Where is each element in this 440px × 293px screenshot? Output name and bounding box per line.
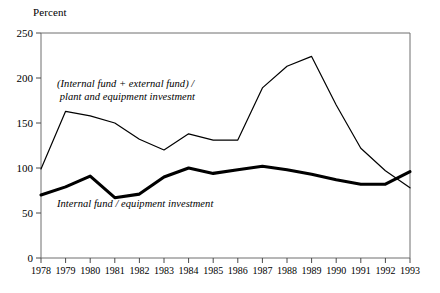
annotation-internal-funds: Internal fund / equipment investment [57, 198, 213, 211]
chart-figure: Percent 250 200 150 100 50 0 1978 1979 1… [0, 0, 440, 293]
plot-frame [41, 33, 410, 258]
y-axis-ticks [36, 33, 41, 258]
annotation-total-funds: (Internal fund + external fund) / plant … [57, 78, 195, 103]
series-line-internal-funds [41, 166, 410, 198]
series-line-total-funds [41, 56, 410, 187]
annotation-total-funds-line2: plant and equipment investment [57, 91, 195, 102]
x-axis-ticks [41, 258, 410, 263]
plot-area [0, 0, 440, 293]
annotation-total-funds-line1: (Internal fund + external fund) / [57, 78, 194, 89]
